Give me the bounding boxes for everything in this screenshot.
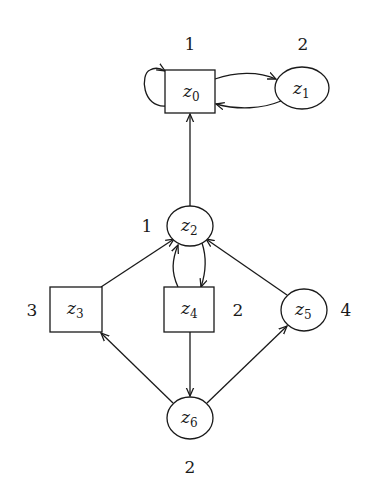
edge-z0-self-loop <box>144 68 166 106</box>
edge-z2-to-z4 <box>201 243 205 287</box>
game-graph-diagram: z0 z1 z2 z3 z4 z5 z6 1 2 1 3 2 4 2 <box>0 0 375 500</box>
edge-z4-to-z2 <box>173 245 178 287</box>
edge-z6-to-z5 <box>207 326 287 403</box>
priority-label-z2: 1 <box>142 216 153 236</box>
priority-label-z1: 2 <box>298 34 309 54</box>
edge-z3-to-z2 <box>101 239 174 287</box>
edge-z1-to-z0 <box>216 101 281 108</box>
edge-z0-to-z1 <box>215 73 276 79</box>
priority-label-z0: 1 <box>185 34 196 54</box>
node-z2: z2 <box>167 206 213 246</box>
node-z4: z4 <box>164 287 214 332</box>
node-z1: z1 <box>275 67 329 109</box>
node-z6: z6 <box>167 397 213 439</box>
node-z0: z0 <box>165 70 215 113</box>
edge-z6-to-z3 <box>101 333 173 403</box>
edge-z5-to-z2 <box>206 239 287 295</box>
priority-label-z6: 2 <box>185 457 196 477</box>
node-z3: z3 <box>50 287 102 332</box>
priority-label-z4: 2 <box>233 300 244 320</box>
priority-label-z5: 4 <box>341 300 352 320</box>
priority-label-z3: 3 <box>27 300 38 320</box>
node-z5: z5 <box>281 289 327 331</box>
